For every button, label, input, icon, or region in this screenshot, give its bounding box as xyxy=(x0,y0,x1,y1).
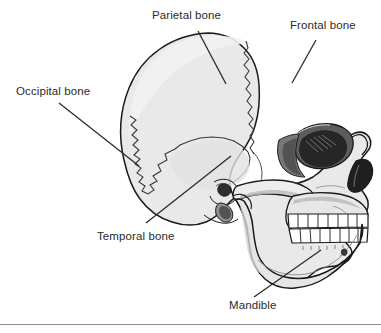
figure-bottom-rule xyxy=(0,324,381,325)
mental-foramen xyxy=(341,249,347,255)
label-temporal-bone: Temporal bone xyxy=(97,230,174,242)
skull-group xyxy=(121,33,373,288)
label-parietal-bone: Parietal bone xyxy=(152,9,221,21)
skull-diagram-figure: Parietal bone Frontal bone Occipital bon… xyxy=(0,0,381,333)
label-mandible: Mandible xyxy=(229,299,276,311)
label-frontal-bone: Frontal bone xyxy=(290,19,356,31)
leader-line-frontal xyxy=(292,40,316,83)
label-occipital-bone: Occipital bone xyxy=(16,85,90,97)
skull-illustration xyxy=(0,0,381,333)
